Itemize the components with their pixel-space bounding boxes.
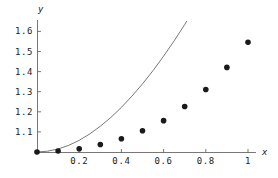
data-point bbox=[224, 65, 230, 71]
y-axis-title: y bbox=[38, 4, 43, 14]
x-tick-label-2: 0.6 bbox=[144, 156, 184, 166]
data-point bbox=[245, 39, 251, 45]
data-point-markers bbox=[34, 39, 251, 154]
data-point bbox=[161, 118, 167, 124]
y-tick-label-4: 1.5 bbox=[0, 47, 33, 57]
data-point bbox=[203, 87, 209, 93]
data-point bbox=[119, 136, 125, 142]
curve-path bbox=[37, 21, 187, 152]
x-axis-ticks bbox=[79, 149, 248, 153]
x-tick-label-1: 0.4 bbox=[101, 156, 141, 166]
plot-canvas bbox=[0, 0, 278, 178]
x-axis-title: x bbox=[262, 147, 267, 157]
data-point bbox=[55, 148, 61, 154]
y-tick-label-5: 1.6 bbox=[0, 26, 33, 36]
axis-lines bbox=[37, 20, 256, 153]
data-point bbox=[76, 146, 82, 152]
y-tick-label-1: 1.2 bbox=[0, 107, 33, 117]
x-tick-label-3: 0.8 bbox=[186, 156, 226, 166]
data-point bbox=[98, 142, 104, 148]
plot-figure: 1.11.21.31.41.51.6 0.20.40.60.81 y x bbox=[0, 0, 278, 178]
data-point bbox=[34, 149, 40, 155]
y-axis-ticks bbox=[38, 31, 42, 131]
fitted-curve bbox=[37, 21, 187, 152]
x-tick-label-0: 0.2 bbox=[59, 156, 99, 166]
y-tick-label-3: 1.4 bbox=[0, 67, 33, 77]
data-point bbox=[140, 128, 146, 134]
y-tick-label-0: 1.1 bbox=[0, 127, 33, 137]
y-tick-label-2: 1.3 bbox=[0, 87, 33, 97]
data-point bbox=[182, 104, 188, 110]
x-tick-label-4: 1 bbox=[228, 156, 268, 166]
